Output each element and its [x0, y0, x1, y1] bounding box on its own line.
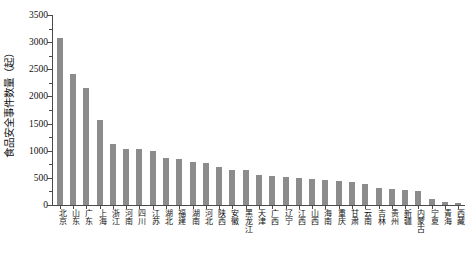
y-axis-major-tick [47, 42, 52, 43]
x-axis-tick-label: 广东 [81, 209, 92, 225]
bar [362, 184, 368, 205]
bar [136, 149, 142, 205]
bar [176, 159, 182, 205]
y-axis-minor-tick [49, 191, 52, 192]
x-axis-tick-label: 海南 [320, 209, 331, 225]
bar [283, 177, 289, 205]
bar [336, 181, 342, 205]
bar [83, 88, 89, 205]
y-axis-tick-label: 3500 [12, 10, 48, 20]
x-axis-tick-label: 湖北 [160, 209, 171, 225]
x-axis-tick-label: 福建 [174, 209, 185, 225]
bar [110, 144, 116, 205]
x-axis-tick-label: 重庆 [333, 209, 344, 225]
bar [123, 149, 129, 205]
x-axis-tick-label: 宁夏 [426, 209, 437, 225]
y-axis-major-tick [47, 178, 52, 179]
bar [349, 182, 355, 205]
y-axis-minor-tick [49, 56, 52, 57]
x-axis-tick-label: 黑龙江 [240, 209, 251, 233]
bar [57, 38, 63, 205]
y-axis-minor-tick [49, 29, 52, 30]
bar [70, 74, 76, 205]
y-axis-major-tick [47, 69, 52, 70]
y-axis-tick-label: 2500 [12, 64, 48, 74]
x-axis-tick-label: 江西 [293, 209, 304, 225]
y-axis-minor-tick [49, 164, 52, 165]
y-axis-tick-labels: 0500100015002000250030003500 [12, 0, 48, 210]
x-axis-tick-label: 辽宁 [280, 209, 291, 225]
x-axis-tick-label: 西藏 [453, 209, 464, 225]
bar [150, 151, 156, 205]
y-axis-major-tick [47, 205, 52, 206]
x-axis-tick-label: 湖南 [187, 209, 198, 225]
y-axis-major-tick [47, 124, 52, 125]
y-axis-minor-tick [49, 110, 52, 111]
x-axis-tick-label: 陕西 [214, 209, 225, 225]
y-axis-minor-tick [49, 137, 52, 138]
bar [216, 167, 222, 205]
x-axis-tick-label: 江苏 [147, 209, 158, 225]
bar [97, 120, 103, 205]
x-axis-tick-label: 新疆 [400, 209, 411, 225]
bar [229, 170, 235, 205]
x-axis-tick-label: 山东 [67, 209, 78, 225]
x-axis-tick-label: 四川 [134, 209, 145, 225]
y-axis-major-tick [47, 151, 52, 152]
bar [429, 199, 435, 205]
x-axis-tick-label: 内蒙古 [413, 209, 424, 233]
bar [402, 190, 408, 205]
x-axis-tick-label: 河南 [121, 209, 132, 225]
y-axis-minor-tick [49, 83, 52, 84]
bar [296, 178, 302, 205]
bar [455, 203, 461, 205]
bar [322, 180, 328, 206]
bar [389, 189, 395, 205]
y-axis-tick-label: 1500 [12, 119, 48, 129]
x-axis-tick-label: 河北 [200, 209, 211, 225]
y-axis-tick-label: 500 [12, 173, 48, 183]
bar [256, 175, 262, 205]
y-axis-major-tick [47, 96, 52, 97]
x-axis-tick-label: 浙江 [107, 209, 118, 225]
bar [376, 188, 382, 205]
x-axis-tick-labels: 北京山东广东上海浙江河南四川江苏湖北福建湖南河北陕西安徽黑龙江天津广西辽宁江西山… [53, 209, 465, 259]
plot-area [53, 15, 465, 205]
x-axis-tick-label: 山西 [307, 209, 318, 225]
bar [415, 191, 421, 205]
x-axis-tick-label: 青海 [440, 209, 451, 225]
x-axis-tick-label: 天津 [254, 209, 265, 225]
y-axis-major-tick [47, 15, 52, 16]
y-axis-tick-label: 2000 [12, 91, 48, 101]
y-axis-tick-label: 0 [12, 200, 48, 210]
bar [243, 170, 249, 205]
x-axis-tick-label: 吉林 [373, 209, 384, 225]
bar [269, 176, 275, 205]
bar [203, 163, 209, 205]
x-axis-tick-label: 甘肃 [347, 209, 358, 225]
bar [442, 202, 448, 205]
x-axis-tick-label: 上海 [94, 209, 105, 225]
y-axis-tick-label: 3000 [12, 37, 48, 47]
bar [190, 162, 196, 205]
x-axis-tick-label: 广西 [267, 209, 278, 225]
bar-chart: 食品安全事件数量（起） 0500100015002000250030003500… [0, 0, 475, 259]
bar [163, 158, 169, 205]
x-axis-tick-label: 北京 [54, 209, 65, 225]
x-axis-tick-label: 安徽 [227, 209, 238, 225]
bar [309, 179, 315, 205]
x-axis-tick-label: 贵州 [386, 209, 397, 225]
y-axis-tick-label: 1000 [12, 146, 48, 156]
x-axis-tick-label: 云南 [360, 209, 371, 225]
